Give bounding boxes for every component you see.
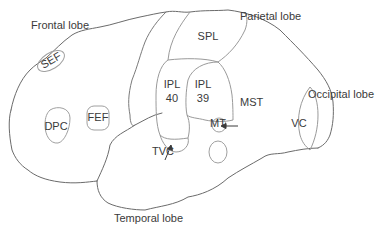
spl-label: SPL: [198, 31, 219, 42]
occipital-lobe-label: Occipital lobe: [308, 89, 374, 100]
ipl39-label: IPL 39: [195, 77, 212, 105]
temporal-lobe-outline: [97, 148, 318, 210]
ipl40-label-line1: IPL: [164, 77, 181, 91]
ipl39-label-line2: 39: [195, 91, 212, 105]
mt-ellipse: [209, 141, 227, 163]
parietal-lobe-label: Parietal lobe: [240, 11, 301, 22]
vc-label: VC: [291, 118, 306, 129]
tvc-label: TVC: [152, 146, 174, 157]
brain-outline-svg: [0, 0, 376, 227]
temporal-lobe-label: Temporal lobe: [114, 213, 183, 224]
fef-label: FEF: [88, 112, 109, 123]
brain-diagram: Frontal lobe Parietal lobe Occipital lob…: [0, 0, 376, 227]
frontal-lobe-label: Frontal lobe: [31, 20, 89, 31]
ipl40-label: IPL 40: [164, 77, 181, 105]
ipl40-label-line2: 40: [164, 91, 181, 105]
ipl39-label-line1: IPL: [195, 77, 212, 91]
mt-label: MT: [210, 118, 226, 129]
dpc-label: DPC: [44, 121, 67, 132]
mst-label: MST: [240, 97, 263, 108]
